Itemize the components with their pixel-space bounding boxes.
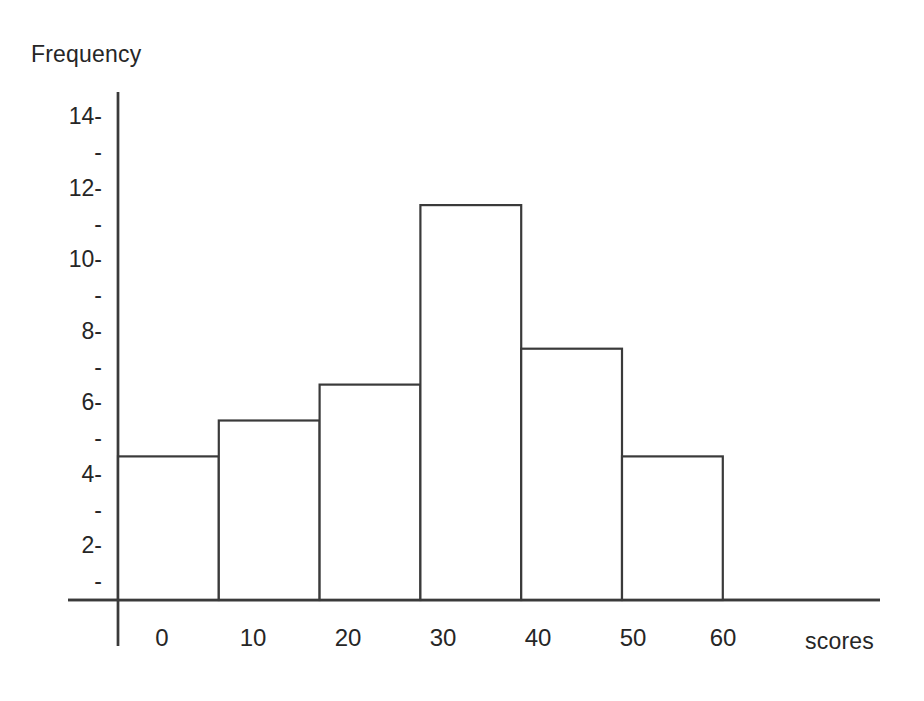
histogram-chart: Frequency scores 14- - 12- - 10- - 8- - …: [0, 0, 924, 701]
plot-area: [0, 0, 924, 701]
histogram-bar: [622, 456, 723, 600]
histogram-bar: [118, 456, 219, 600]
histogram-bar: [420, 205, 521, 600]
bars: [68, 92, 880, 646]
histogram-bar: [219, 421, 320, 601]
histogram-bar: [320, 385, 421, 600]
histogram-bar: [521, 349, 622, 600]
